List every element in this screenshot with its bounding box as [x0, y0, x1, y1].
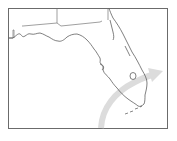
map-canvas	[0, 0, 177, 141]
map-frame	[9, 9, 168, 129]
florida-map	[0, 0, 177, 141]
